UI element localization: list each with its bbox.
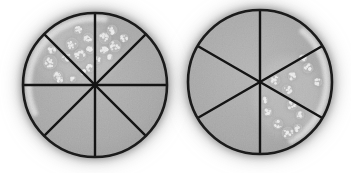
- petri-dish-left: [15, 5, 175, 165]
- petri-dish-photo: [0, 0, 351, 173]
- petri-dish-right: [180, 2, 340, 162]
